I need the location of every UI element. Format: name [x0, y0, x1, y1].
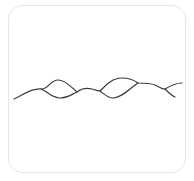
wave-strand-a — [14, 78, 182, 99]
wave-strands-drawing — [0, 0, 194, 181]
diagram-canvas — [0, 0, 194, 181]
